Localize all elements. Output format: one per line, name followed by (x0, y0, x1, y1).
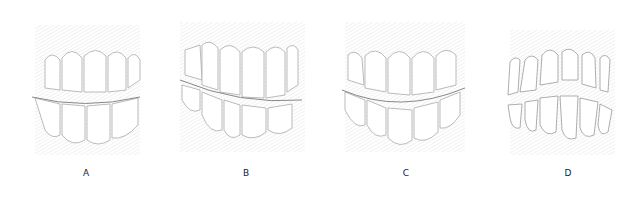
upper-tooth (508, 58, 520, 95)
upper-tooth (202, 42, 218, 90)
upper-tooth (108, 52, 126, 92)
lower-tooth (414, 102, 438, 140)
upper-tooth (242, 47, 264, 98)
panel-d: D (480, 0, 640, 197)
panel-b: B (160, 0, 320, 197)
gum-shading (510, 30, 615, 155)
lower-tooth (242, 105, 266, 138)
upper-tooth (582, 52, 596, 88)
upper-tooth (220, 45, 240, 95)
upper-tooth (540, 50, 558, 85)
panel-label-a: A (76, 168, 96, 178)
upper-tooth (266, 47, 285, 98)
panel-label-b: B (236, 168, 256, 178)
upper-tooth (45, 55, 60, 90)
upper-tooth (412, 52, 434, 96)
upper-tooth (185, 45, 202, 80)
panel-label-d: D (558, 168, 578, 178)
upper-tooth (600, 55, 610, 92)
upper-tooth (62, 52, 82, 93)
lower-tooth (525, 100, 538, 131)
upper-tooth (436, 50, 456, 90)
upper-tooth (388, 52, 410, 96)
lower-tooth (62, 104, 85, 143)
upper-tooth (562, 49, 578, 80)
lower-tooth (224, 100, 240, 138)
upper-tooth (287, 45, 298, 92)
lower-tooth (560, 96, 578, 139)
panel-a: A (0, 0, 160, 197)
upper-tooth (84, 51, 106, 93)
upper-tooth (365, 51, 386, 92)
upper-tooth (348, 52, 364, 85)
lower-tooth (87, 104, 110, 144)
panel-c: C (320, 0, 480, 197)
panel-label-c: C (396, 168, 416, 178)
lower-tooth (388, 108, 412, 145)
lower-tooth (268, 104, 292, 134)
lower-tooth (540, 96, 558, 134)
